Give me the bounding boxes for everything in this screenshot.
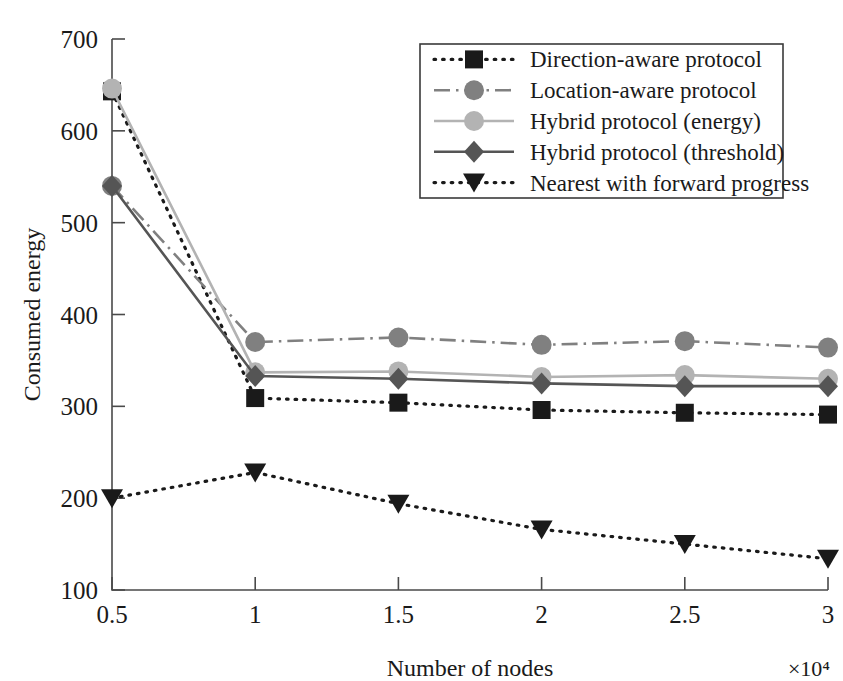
x-tick-label: 3 bbox=[822, 601, 835, 628]
marker-circle bbox=[245, 332, 265, 352]
legend-label: Location-aware protocol bbox=[530, 78, 757, 103]
series-4 bbox=[101, 463, 839, 568]
marker-square bbox=[246, 389, 264, 407]
legend-label: Hybrid protocol (threshold) bbox=[530, 140, 784, 165]
chart-container: 1002003004005006007000.511.522.53Consume… bbox=[0, 0, 843, 681]
legend-label: Direction-aware protocol bbox=[530, 47, 762, 72]
marker-square bbox=[676, 404, 694, 422]
x-tick-label: 0.5 bbox=[96, 601, 127, 628]
marker-triangle-down bbox=[674, 535, 696, 554]
marker-circle bbox=[532, 335, 552, 355]
y-tick-label: 600 bbox=[61, 118, 99, 145]
x-tick-label: 1.5 bbox=[383, 601, 414, 628]
legend-label: Hybrid protocol (energy) bbox=[530, 109, 761, 134]
marker-triangle-down bbox=[531, 520, 553, 539]
y-tick-label: 100 bbox=[61, 577, 99, 604]
y-tick-label: 700 bbox=[61, 26, 99, 53]
x-axis-exponent: ×10⁴ bbox=[788, 656, 830, 681]
series-line bbox=[112, 186, 828, 386]
series-line bbox=[112, 186, 828, 348]
legend-layer: Direction-aware protocolLocation-aware p… bbox=[420, 44, 809, 198]
marker-circle bbox=[675, 331, 695, 351]
series-1 bbox=[102, 176, 838, 358]
marker-circle bbox=[464, 111, 484, 131]
y-tick-label: 400 bbox=[61, 302, 99, 329]
y-tick-label: 200 bbox=[61, 485, 99, 512]
line-chart: 1002003004005006007000.511.522.53Consume… bbox=[0, 0, 843, 681]
x-tick-label: 1 bbox=[249, 601, 262, 628]
y-tick-label: 300 bbox=[61, 393, 99, 420]
x-axis-title: Number of nodes bbox=[387, 655, 554, 681]
y-axis-title: Consumed energy bbox=[19, 228, 45, 402]
marker-square bbox=[533, 401, 551, 419]
legend-label: Nearest with forward progress bbox=[530, 171, 809, 196]
marker-circle bbox=[102, 79, 122, 99]
marker-triangle-down bbox=[817, 550, 839, 569]
marker-circle bbox=[464, 80, 484, 100]
x-tick-label: 2.5 bbox=[669, 601, 700, 628]
marker-square bbox=[819, 406, 837, 424]
marker-square bbox=[389, 394, 407, 412]
marker-square bbox=[465, 50, 483, 68]
series-line bbox=[112, 472, 828, 558]
x-tick-label: 2 bbox=[535, 601, 548, 628]
y-tick-label: 500 bbox=[61, 210, 99, 237]
marker-circle bbox=[388, 327, 408, 347]
marker-circle bbox=[818, 338, 838, 358]
